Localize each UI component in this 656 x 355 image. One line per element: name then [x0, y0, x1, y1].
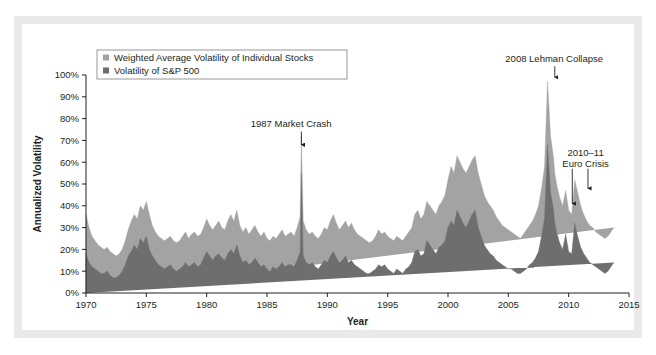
annotation-euro-label-line2: Euro Crisis [562, 158, 609, 169]
y-tick-label: 10% [60, 266, 80, 277]
x-axis-title: Year [347, 316, 368, 327]
legend-label: Weighted Average Volatility of Individua… [114, 52, 314, 63]
x-tick-label: 1970 [75, 299, 96, 310]
volatility-area-chart: 0%10%20%30%40%50%60%70%80%90%100%1970197… [0, 0, 656, 355]
x-tick-label: 1980 [196, 299, 217, 310]
y-tick-label: 100% [55, 69, 80, 80]
legend-label: Volatility of S&P 500 [114, 65, 199, 76]
y-tick-label: 30% [60, 222, 80, 233]
y-tick-label: 40% [60, 200, 80, 211]
x-tick-label: 2000 [437, 299, 458, 310]
y-tick-label: 50% [60, 178, 80, 189]
legend-swatch [103, 68, 109, 74]
figure-root: 0%10%20%30%40%50%60%70%80%90%100%1970197… [0, 0, 656, 355]
x-tick-label: 2010 [558, 299, 579, 310]
x-tick-label: 1990 [317, 299, 338, 310]
x-tick-label: 1985 [256, 299, 277, 310]
y-tick-label: 70% [60, 135, 80, 146]
legend-swatch [103, 55, 109, 61]
x-tick-label: 2005 [498, 299, 519, 310]
x-tick-label: 1995 [377, 299, 398, 310]
y-axis-title: Annualized Volatility [32, 135, 43, 232]
y-tick-label: 20% [60, 244, 80, 255]
y-tick-label: 60% [60, 157, 80, 168]
y-tick-label: 0% [65, 287, 79, 298]
annotation-1987-label: 1987 Market Crash [251, 118, 332, 129]
x-tick-label: 2015 [618, 299, 639, 310]
annotation-euro-label-line1: 2010–11 [567, 147, 603, 158]
x-tick-label: 1975 [136, 299, 157, 310]
annotation-2008-label: 2008 Lehman Collapse [505, 53, 603, 64]
y-tick-label: 80% [60, 113, 80, 124]
y-tick-label: 90% [60, 91, 80, 102]
